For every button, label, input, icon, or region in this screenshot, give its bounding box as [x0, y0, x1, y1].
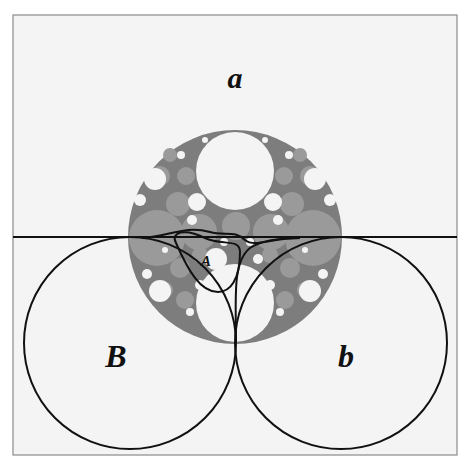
label-a: a: [228, 61, 243, 94]
apollonian-gasket-diagram: a A B b: [0, 0, 471, 465]
label-A: A: [200, 253, 211, 269]
label-B: B: [104, 338, 126, 374]
label-b: b: [338, 338, 354, 374]
